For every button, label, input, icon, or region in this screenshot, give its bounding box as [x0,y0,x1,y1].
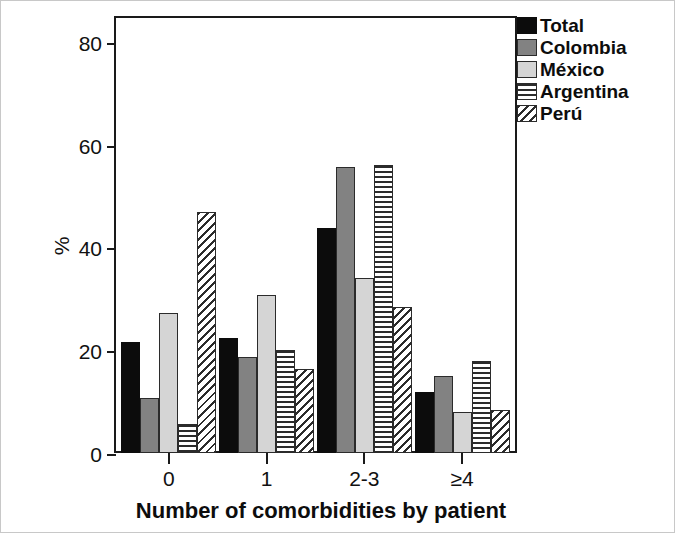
legend-label-total: Total [540,16,584,35]
y-axis-tick-mark [107,146,116,148]
chart-page: 0 20 40 60 80 [0,0,675,533]
legend-swatch-mexico [517,61,537,78]
legend-item-colombia: Colombia [517,37,629,58]
x-axis-tick-slot [317,453,412,465]
y-axis-tick-label: 40 [79,237,107,261]
x-axis-title: Number of comorbidities by patient [1,498,641,524]
y-axis-tick-20: 20 [79,340,116,364]
legend-label-mexico: México [540,60,604,79]
y-axis-tick-0: 0 [90,443,116,467]
legend-label-argentina: Argentina [540,82,629,101]
y-axis-tick-label: 60 [79,135,107,159]
legend-item-argentina: Argentina [517,81,629,102]
x-axis-tick-mark [266,453,268,464]
legend-swatch-colombia [517,39,537,56]
x-axis-tick-mark [363,453,365,464]
x-axis-label-3: ≥4 [415,467,510,491]
legend: Total Colombia México Argentina Perú [517,15,629,124]
legend-swatch-total [517,17,537,34]
x-axis-label-1: 1 [219,467,314,491]
legend-swatch-argentina [517,83,537,100]
plot-frame: 0 20 40 60 80 [114,16,517,453]
y-axis-tick-60: 60 [79,135,116,159]
y-axis-tick-mark [107,351,116,353]
x-axis-tick-mark [168,453,170,464]
y-axis-tick-40: 40 [79,237,116,261]
y-axis-tick-80: 80 [79,32,116,56]
legend-swatch-peru [517,105,537,122]
y-axis-tick-mark [107,43,116,45]
y-axis-title: % [50,237,74,256]
y-axis-tick-label: 80 [79,32,107,56]
x-axis-labels: 0 1 2-3 ≥4 [114,467,517,491]
x-axis-ticks [114,453,517,465]
x-axis-tick-slot [415,453,510,465]
x-axis-label-0: 0 [121,467,216,491]
legend-label-peru: Perú [540,104,582,123]
x-axis-tick-mark [461,453,463,464]
legend-item-total: Total [517,15,629,36]
y-axis-tick-mark [107,248,116,250]
legend-item-peru: Perú [517,103,629,124]
x-axis-tick-slot [219,453,314,465]
x-axis-label-2: 2-3 [317,467,412,491]
y-axis-tick-label: 20 [79,340,107,364]
legend-label-colombia: Colombia [540,38,627,57]
legend-item-mexico: México [517,59,629,80]
x-axis-tick-slot [121,453,216,465]
y-axis-tick-label: 0 [90,443,107,467]
